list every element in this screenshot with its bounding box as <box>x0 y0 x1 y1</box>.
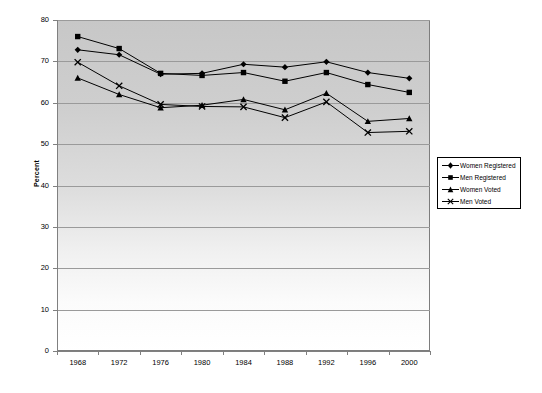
x-tick-label: 1968 <box>58 359 98 367</box>
x-tick-label: 1980 <box>182 359 222 367</box>
legend-item-women-registered: Women Registered <box>441 160 516 171</box>
chart-container: Percent 01020304050607080 19681972197619… <box>0 0 542 393</box>
y-tick-label: 70 <box>25 57 49 65</box>
plot-background <box>57 20 430 351</box>
y-tick-label: 10 <box>25 306 49 314</box>
cross-marker-icon <box>441 196 460 207</box>
triangle-marker-icon <box>441 184 460 195</box>
legend-item-men-voted: Men Voted <box>441 196 491 207</box>
x-tick-label: 2000 <box>389 359 429 367</box>
x-tick-label: 1988 <box>265 359 305 367</box>
y-tick-label: 40 <box>25 182 49 190</box>
x-tick-label: 1976 <box>141 359 181 367</box>
y-tick-label: 20 <box>25 264 49 272</box>
legend-item-men-registered: Men Registered <box>441 172 506 183</box>
y-tick-label: 50 <box>25 140 49 148</box>
y-tick-label: 80 <box>25 16 49 24</box>
legend-label: Men Voted <box>460 198 491 205</box>
y-tick-label: 30 <box>25 223 49 231</box>
legend-label: Women Registered <box>460 162 516 169</box>
legend-item-women-voted: Women Voted <box>441 184 501 195</box>
x-tick-label: 1972 <box>99 359 139 367</box>
x-tick-label: 1992 <box>306 359 346 367</box>
y-tick-label: 0 <box>25 347 49 355</box>
square-marker-icon <box>441 172 460 183</box>
legend-label: Men Registered <box>460 174 506 181</box>
x-tick-label: 1984 <box>224 359 264 367</box>
x-tick-label: 1996 <box>348 359 388 367</box>
legend-label: Women Voted <box>460 186 501 193</box>
diamond-marker-icon <box>441 160 460 171</box>
y-tick-label: 60 <box>25 99 49 107</box>
chart-legend: Women Registered Men Registered Women Vo… <box>437 157 521 209</box>
